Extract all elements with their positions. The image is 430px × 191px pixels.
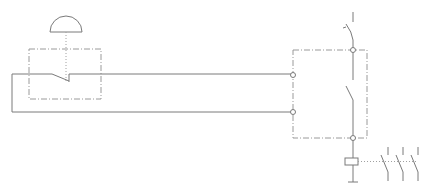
terminal-1 xyxy=(291,73,296,78)
terminal-3 xyxy=(351,48,356,53)
relay-enclosure xyxy=(293,50,367,138)
relay-no-contact xyxy=(346,86,353,100)
pole-2-blade xyxy=(396,155,403,172)
nc-contact-stub xyxy=(69,74,293,82)
schematic-diagram xyxy=(0,0,430,191)
main-switch xyxy=(343,12,353,48)
switch-blade xyxy=(346,24,353,48)
main-contacts xyxy=(381,147,418,181)
terminal-4 xyxy=(351,136,356,141)
terminal-2 xyxy=(291,110,296,115)
mushroom-head-icon xyxy=(50,16,82,32)
pole-3-blade xyxy=(411,155,418,172)
contactor-coil xyxy=(345,158,358,165)
switch-mark xyxy=(343,27,346,28)
pole-1-blade xyxy=(381,155,388,172)
upper-wire-left xyxy=(12,74,293,112)
estop-contact xyxy=(12,74,293,112)
